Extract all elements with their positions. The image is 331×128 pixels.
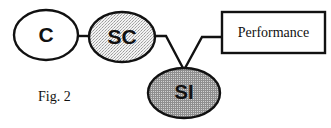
node-performance-label: Performance: [238, 25, 310, 40]
figure-caption: Fig. 2: [38, 89, 71, 104]
node-sc-label: SC: [107, 25, 136, 48]
diagram-canvas: C SC SI Performance Fig. 2: [0, 0, 331, 128]
connector-sc-to-si: [154, 36, 184, 70]
node-c-label: C: [38, 23, 53, 46]
figure-diagram: C SC SI Performance Fig. 2: [0, 0, 331, 128]
node-si-label: SI: [175, 81, 194, 103]
connector-performance-to-si: [184, 37, 222, 70]
